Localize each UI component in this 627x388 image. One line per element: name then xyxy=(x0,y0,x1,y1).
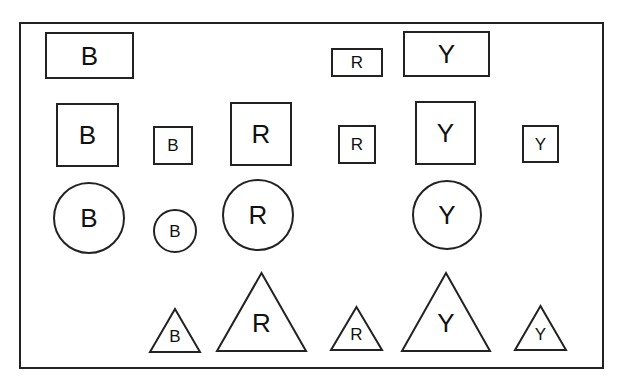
shape-label: Y xyxy=(438,200,455,230)
shape-label: B xyxy=(81,41,98,71)
diagram-frame xyxy=(20,23,603,368)
rect-b-wide: B xyxy=(46,33,133,78)
rect-r-wide-small: R xyxy=(332,49,382,76)
circle-r-large: R xyxy=(223,180,293,250)
shape-label: Y xyxy=(535,325,546,344)
square-r-large: R xyxy=(231,103,291,165)
triangle-y-large: Y xyxy=(402,273,490,351)
square-r-small: R xyxy=(339,126,375,163)
shape-label: R xyxy=(249,200,268,230)
shape-label: Y xyxy=(438,39,455,69)
square-y-large: Y xyxy=(416,102,475,164)
shapes-layer: BRYBBRRYYBBRYBRRYY xyxy=(46,32,566,352)
triangle-y-small: Y xyxy=(515,306,566,350)
shapes-diagram: BRYBBRRYYBBRYBRRYY xyxy=(0,0,627,388)
shape-label: R xyxy=(252,308,271,338)
shape-label: B xyxy=(80,203,97,233)
square-b-small: B xyxy=(154,127,192,164)
shape-label: B xyxy=(167,136,178,155)
shape-label: B xyxy=(169,222,180,241)
shape-label: Y xyxy=(437,308,454,338)
triangle-r-small: R xyxy=(331,307,382,350)
circle-b-small: B xyxy=(154,210,196,252)
shape-label: Y xyxy=(535,135,546,154)
triangle-b-small: B xyxy=(150,309,200,352)
rect-y-wide: Y xyxy=(404,32,489,76)
shape-label: Y xyxy=(437,118,454,148)
circle-y-large: Y xyxy=(413,181,481,249)
shape-label: B xyxy=(79,120,96,150)
shape-label: R xyxy=(351,53,363,72)
square-b-large: B xyxy=(57,104,118,166)
shape-label: R xyxy=(350,325,362,344)
shape-label: R xyxy=(351,135,363,154)
triangle-r-large: R xyxy=(217,273,306,351)
square-y-small: Y xyxy=(523,126,558,162)
shape-label: R xyxy=(252,119,271,149)
shape-label: B xyxy=(169,327,180,346)
circle-b-large: B xyxy=(54,183,124,253)
